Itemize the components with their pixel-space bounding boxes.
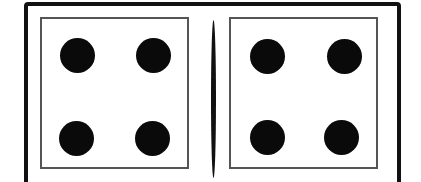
pip — [59, 121, 94, 156]
pip — [135, 121, 170, 156]
domino-tile — [24, 2, 401, 182]
pip — [250, 39, 285, 74]
pip — [136, 38, 171, 73]
domino-right-half — [229, 17, 378, 169]
pip — [324, 120, 359, 155]
domino-left-half — [40, 17, 189, 169]
pip — [250, 120, 285, 155]
domino-divider — [211, 20, 216, 178]
pip — [60, 38, 95, 73]
pip — [327, 39, 362, 74]
